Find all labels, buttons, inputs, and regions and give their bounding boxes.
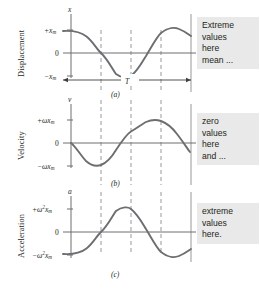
- axis-label-a: a: [68, 187, 72, 196]
- panel-tag-a: (a): [111, 90, 120, 99]
- ytick-label-zero-c: 0: [55, 228, 59, 237]
- period-label-backdrop: [121, 74, 139, 86]
- annotation-line: values: [202, 32, 255, 44]
- panel-tag-b: (b): [111, 179, 120, 188]
- ytick-label-zero-b: 0: [55, 139, 59, 148]
- annotation-line: extreme: [202, 206, 255, 218]
- annotation-line: values: [202, 128, 255, 140]
- shm-figure: +xm 0 −xm x t T (a) +ωxm 0 −ωxm v t (b): [0, 0, 260, 290]
- period-arrow-head-left: [63, 78, 68, 83]
- annotation-line: here: [202, 43, 255, 55]
- side-label-velocity: Velocity: [17, 131, 26, 160]
- ytick-label-minus-omega2-xm: −ω2xm: [32, 250, 52, 260]
- panel-velocity: +ωxm 0 −ωxm v t (b): [37, 95, 201, 188]
- annotation-line: zero: [202, 116, 255, 128]
- annotation-line: Extreme: [202, 20, 255, 32]
- annotation-box-velocity: zero values here and ...: [197, 113, 259, 165]
- annotation-box-acceleration: extreme values here.: [197, 203, 259, 244]
- side-label-displacement: Displacement: [17, 29, 26, 77]
- panel-displacement: +xm 0 −xm x t T (a): [44, 5, 201, 99]
- annotation-line: here: [202, 139, 255, 151]
- axis-label-x: x: [67, 5, 72, 14]
- period-arrow-head-right: [186, 78, 191, 83]
- panel-acceleration: +ω2xm 0 −ω2xm a t (c): [32, 187, 201, 279]
- panel-tag-c: (c): [111, 270, 120, 279]
- ytick-label-minus-xm: −xm: [44, 72, 56, 82]
- annotation-line: here.: [202, 229, 255, 241]
- ytick-label-minus-omega-xm: −ωxm: [37, 162, 55, 172]
- ytick-label-zero-a: 0: [55, 49, 59, 58]
- annotation-line: and ...: [202, 151, 255, 163]
- side-label-acceleration: Acceleration: [17, 213, 26, 258]
- axis-label-v: v: [68, 95, 72, 104]
- annotation-line: mean ...: [202, 55, 255, 67]
- ytick-label-plus-xm: +xm: [44, 26, 56, 36]
- annotation-box-displacement: Extreme values here mean ...: [197, 17, 259, 69]
- ytick-label-plus-omega-xm: +ωxm: [37, 116, 55, 126]
- ytick-label-plus-omega2-xm: +ω2xm: [32, 204, 52, 214]
- annotation-line: values: [202, 218, 255, 230]
